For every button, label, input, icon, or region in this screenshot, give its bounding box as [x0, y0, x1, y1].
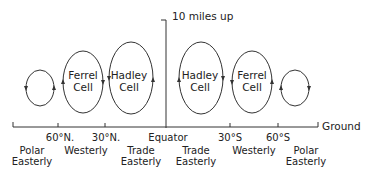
hadley-cell-north-label: HadleyCell	[111, 69, 148, 93]
polar-cell-south	[281, 70, 309, 106]
ferrel-cell-south-label: FerrelCell	[237, 69, 267, 93]
latitude-60n: 60°N.	[46, 132, 74, 143]
wind-westerly-north: Westerly	[64, 145, 108, 156]
altitude-label: 10 miles up	[172, 11, 233, 22]
latitude-30s: 30°S	[218, 132, 242, 143]
wind-polar-easterly-north: PolarEasterly	[12, 145, 53, 167]
equator-label: Equator	[148, 132, 187, 143]
wind-trade-easterly-north: TradeEasterly	[121, 145, 162, 167]
wind-trade-easterly-south: TradeEasterly	[176, 145, 217, 167]
latitude-30n: 30°N.	[92, 132, 120, 143]
latitude-60s: 60°S	[266, 132, 290, 143]
wind-polar-easterly-south: PolarEasterly	[286, 145, 327, 167]
ferrel-cell-north-label: FerrelCell	[68, 69, 98, 93]
wind-westerly-south: Westerly	[232, 145, 276, 156]
ground-label: Ground	[322, 121, 361, 132]
polar-cell-north	[26, 70, 54, 106]
hadley-cell-south-label: HadleyCell	[182, 69, 219, 93]
